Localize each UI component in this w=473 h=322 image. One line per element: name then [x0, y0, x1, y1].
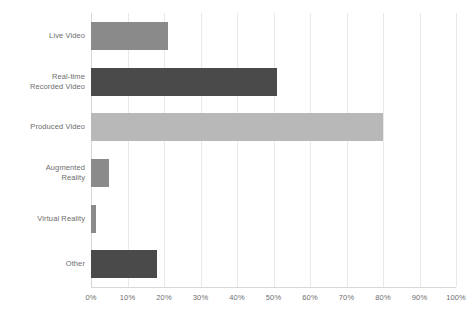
category-label-line: Recorded Video [3, 82, 85, 92]
x-tick-label-90: 90% [412, 292, 427, 303]
bar-produced-video[interactable] [91, 113, 383, 141]
category-label-live-video: Live Video [3, 31, 85, 41]
category-label-virtual-reality: Virtual Reality [3, 214, 85, 224]
category-label-line: Live Video [3, 31, 85, 41]
gridline-90 [420, 13, 421, 287]
category-label-produced-video: Produced Video [3, 122, 85, 132]
gridline-20 [164, 13, 165, 287]
category-label-line: Reality [3, 173, 85, 183]
x-tick-label-0: 0% [85, 292, 96, 303]
category-label-line: Other [3, 259, 85, 269]
category-label-other: Other [3, 259, 85, 269]
x-tick-label-80: 80% [375, 292, 390, 303]
x-tick-label-60: 60% [302, 292, 317, 303]
x-tick-label-20: 20% [156, 292, 171, 303]
gridline-0 [91, 13, 92, 287]
x-tick-label-10: 10% [120, 292, 135, 303]
bar-live-video[interactable] [91, 22, 168, 50]
bar-row [91, 22, 456, 50]
gridline-70 [347, 13, 348, 287]
category-label-line: Produced Video [3, 122, 85, 132]
x-tick-label-50: 50% [266, 292, 281, 303]
gridline-10 [128, 13, 129, 287]
bar-row [91, 68, 456, 96]
gridline-80 [383, 13, 384, 287]
gridline-100 [456, 13, 457, 287]
x-tick-label-30: 30% [193, 292, 208, 303]
category-label-real-time-recorded-video: Real-timeRecorded Video [3, 72, 85, 91]
category-label-line: Virtual Reality [3, 214, 85, 224]
bar-row [91, 205, 456, 233]
x-axis-tick-labels: 0%10%20%30%40%50%60%70%80%90%100% [91, 292, 456, 308]
gridline-30 [201, 13, 202, 287]
bar-row [91, 250, 456, 278]
x-axis-line [91, 287, 456, 288]
category-label-augmented-reality: AugmentedReality [3, 163, 85, 182]
x-tick-label-40: 40% [229, 292, 244, 303]
bar-chart: Live VideoReal-timeRecorded VideoProduce… [0, 0, 473, 322]
x-tick-label-70: 70% [339, 292, 354, 303]
bar-row [91, 113, 456, 141]
category-label-line: Real-time [3, 72, 85, 82]
gridline-60 [310, 13, 311, 287]
gridline-40 [237, 13, 238, 287]
bar-row [91, 159, 456, 187]
bar-virtual-reality[interactable] [91, 205, 96, 233]
plot-area [91, 13, 456, 287]
bar-other[interactable] [91, 250, 157, 278]
category-label-line: Augmented [3, 163, 85, 173]
bar-augmented-reality[interactable] [91, 159, 109, 187]
x-tick-label-100: 100% [446, 292, 466, 303]
bar-real-time-recorded-video[interactable] [91, 68, 277, 96]
category-axis: Live VideoReal-timeRecorded VideoProduce… [0, 13, 85, 287]
gridline-50 [274, 13, 275, 287]
